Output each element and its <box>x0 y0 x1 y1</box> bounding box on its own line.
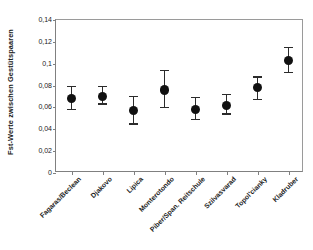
x-axis-tick-label: Kladruber <box>271 176 299 204</box>
x-axis-tick-mark <box>165 171 166 175</box>
data-point-marker <box>98 92 107 101</box>
x-axis-tick-label: Lipica <box>125 176 144 195</box>
error-bar-cap <box>284 72 293 73</box>
y-axis-tick-label: 0,06 <box>38 103 52 110</box>
data-point-marker <box>284 56 293 65</box>
x-axis-tick-label: Piber/Span. Reitschule <box>149 176 207 234</box>
x-axis-tick-mark <box>196 171 197 175</box>
chart-figure: Fst-Werte zwischen Gestütspaaren 00,020,… <box>0 0 313 250</box>
error-bar-cap <box>222 113 231 114</box>
plot-inner <box>56 20 302 171</box>
data-point-marker <box>67 94 76 103</box>
x-axis-tick-label: Djakovo <box>90 176 114 200</box>
y-axis-tick-labels: 00,020,040,060,080,10,120,14 <box>22 12 55 177</box>
x-axis-tick-mark <box>72 171 73 175</box>
y-axis-tick-label: 0,1 <box>42 59 52 66</box>
x-axis-tick-mark <box>103 171 104 175</box>
y-axis-tick-label: 0,08 <box>38 81 52 88</box>
x-axis-tick-label: Fagaras/Beclean <box>39 176 83 220</box>
data-point-marker <box>222 101 231 110</box>
error-bar-cap <box>98 86 107 87</box>
x-axis-tick-mark <box>134 171 135 175</box>
y-axis-tick-mark <box>53 86 57 87</box>
error-bar-cap <box>67 86 76 87</box>
x-axis-tick-label: Topol'cianky <box>234 176 268 210</box>
y-axis-tick-mark <box>53 151 57 152</box>
error-bar-cap <box>67 109 76 110</box>
x-axis-tick-label: Szilvasvarad <box>203 176 237 210</box>
y-axis-tick-label: 0 <box>48 169 52 176</box>
y-axis-tick-label: 0,04 <box>38 125 52 132</box>
data-point-marker <box>129 106 138 115</box>
y-axis-tick-mark <box>53 129 57 130</box>
data-point-marker <box>253 83 262 92</box>
error-bar-cap <box>222 94 231 95</box>
x-axis-tick-mark <box>258 171 259 175</box>
y-axis-tick-label: 0,14 <box>38 16 52 23</box>
y-axis-tick-label: 0,12 <box>38 37 52 44</box>
error-bar-cap <box>98 103 107 104</box>
error-bar-cap <box>191 119 200 120</box>
x-axis-tick-mark <box>227 171 228 175</box>
data-point-marker <box>191 105 200 114</box>
error-bar-cap <box>284 47 293 48</box>
data-point-marker <box>160 85 169 94</box>
error-bar-cap <box>160 70 169 71</box>
y-axis-title: Fst-Werte zwischen Gestütspaaren <box>7 29 14 155</box>
error-bar-cap <box>160 107 169 108</box>
y-axis-tick-mark <box>53 42 57 43</box>
y-axis-tick-mark <box>53 20 57 21</box>
y-axis-tick-mark <box>53 173 57 174</box>
x-axis-tick-labels: Fagaras/BecleanDjakovoLipicaMonterotondo… <box>55 176 303 250</box>
plot-area <box>55 19 303 172</box>
y-axis-tick-label: 0,02 <box>38 147 52 154</box>
error-bar-cap <box>253 76 262 77</box>
y-axis-title-container: Fst-Werte zwischen Gestütspaaren <box>0 8 22 176</box>
error-bar-cap <box>129 123 138 124</box>
error-bar-cap <box>191 97 200 98</box>
error-bar-cap <box>129 96 138 97</box>
y-axis-tick-mark <box>53 107 57 108</box>
x-axis-tick-mark <box>289 171 290 175</box>
error-bar-cap <box>253 99 262 100</box>
y-axis-tick-mark <box>53 64 57 65</box>
